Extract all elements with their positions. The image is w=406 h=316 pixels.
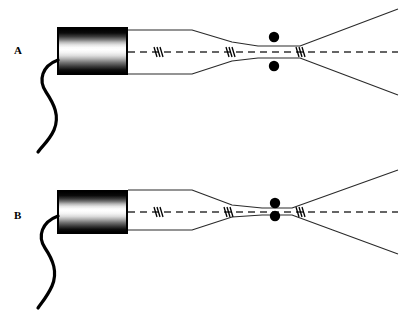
power-cable-b	[38, 216, 58, 308]
flow-marker-b-2	[224, 207, 233, 217]
panel-b-graphics	[0, 158, 406, 316]
flow-marker-a-3	[296, 47, 305, 57]
figure-root: A	[0, 0, 406, 316]
flow-marker-a-1	[154, 47, 163, 57]
flow-marker-a-2	[226, 47, 235, 57]
panel-b: B	[0, 158, 406, 316]
panel-a-graphics	[0, 0, 406, 158]
probe-dot-lower-a	[269, 61, 279, 71]
panel-a: A	[0, 0, 406, 158]
flow-marker-b-1	[154, 207, 163, 217]
flow-marker-b-3	[296, 207, 305, 217]
power-cable-a	[38, 60, 58, 152]
nozzle-upper-wall-a	[128, 9, 398, 46]
probe-dot-upper-b	[270, 198, 280, 208]
nozzle-lower-wall-b	[128, 215, 398, 254]
probe-dot-upper-a	[269, 32, 279, 42]
probe-dot-lower-b	[270, 211, 280, 221]
nozzle-lower-wall-a	[128, 58, 398, 95]
nozzle-upper-wall-b	[128, 170, 398, 208]
